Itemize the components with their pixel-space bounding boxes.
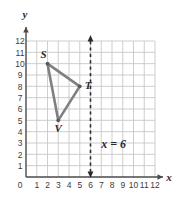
x-axis-label: x: [165, 171, 172, 183]
y-tick-label: 4: [18, 127, 23, 137]
coordinate-grid-svg: 123456789101112 123456789101112 0 x y S …: [0, 0, 177, 197]
y-tick-label: 3: [18, 138, 23, 148]
line-equation-label: x = 6: [100, 137, 126, 151]
y-tick-label: 8: [18, 82, 23, 92]
x-tick-label: 9: [120, 180, 125, 190]
y-axis-label: y: [21, 8, 28, 20]
y-tick-label: 2: [18, 150, 23, 160]
y-tick-label: 11: [16, 48, 25, 58]
x-tick-label: 7: [99, 180, 104, 190]
y-tick-label: 7: [18, 93, 23, 103]
x-tick-label: 1: [34, 180, 39, 190]
vertex-point-t: [78, 84, 82, 88]
x-tick-label: 3: [56, 180, 61, 190]
x-tick-label: 6: [88, 180, 93, 190]
x-tick-label: 4: [67, 180, 72, 190]
y-tick-label: 9: [18, 70, 23, 80]
y-tick-label: 1: [18, 161, 23, 171]
y-tick-label: 5: [18, 116, 23, 126]
x-tick-label: 5: [77, 180, 82, 190]
vertex-label-s: S: [40, 48, 46, 60]
x-tick-label: 2: [45, 180, 50, 190]
y-tick-label: 12: [15, 36, 25, 46]
y-tick-label: 6: [18, 104, 23, 114]
x-tick-label: 12: [150, 180, 160, 190]
x-tick-label: 10: [129, 180, 139, 190]
x-tick-label: 11: [140, 180, 149, 190]
x-tick-label: 8: [110, 180, 115, 190]
y-tick-label: 10: [15, 59, 25, 69]
vertex-point-s: [46, 62, 50, 66]
coordinate-plane-figure: 123456789101112 123456789101112 0 x y S …: [0, 0, 177, 197]
origin-label: 0: [18, 180, 23, 190]
